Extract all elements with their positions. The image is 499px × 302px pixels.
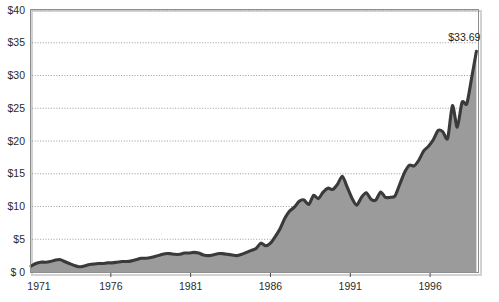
x-tick-label-1986: 1986 <box>259 280 283 292</box>
x-tick-label-1996: 1996 <box>418 280 442 292</box>
y-axis: $ 0$5$10$15$20$25$30$35$40 <box>7 4 25 278</box>
y-tick-label-25: $25 <box>7 102 25 114</box>
chart-container: $ 0$5$10$15$20$25$30$35$40 1971197619811… <box>0 0 499 302</box>
x-tick-label-1991: 1991 <box>339 280 363 292</box>
x-tick-label-1976: 1976 <box>99 280 123 292</box>
annotation-group: $33.69 <box>448 31 480 43</box>
x-tick-label-1981: 1981 <box>179 280 203 292</box>
y-tick-label-40: $40 <box>7 4 25 16</box>
y-tick-label-10: $10 <box>7 200 25 212</box>
y-tick-label-5: $5 <box>13 233 25 245</box>
y-tick-label-15: $15 <box>7 167 25 179</box>
line-area-chart: $ 0$5$10$15$20$25$30$35$40 1971197619811… <box>0 0 499 302</box>
x-tick-label-1971: 1971 <box>27 280 51 292</box>
y-tick-label-35: $35 <box>7 36 25 48</box>
y-tick-label-30: $30 <box>7 69 25 81</box>
y-tick-label-0: $ 0 <box>10 266 25 278</box>
final-value-label: $33.69 <box>448 31 480 43</box>
y-tick-label-20: $20 <box>7 135 25 147</box>
